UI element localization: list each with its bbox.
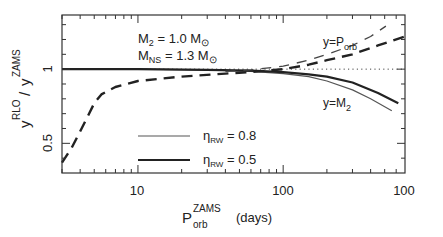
svg-text:MNS = 1.3 M⊙: MNS = 1.3 M⊙ <box>138 48 217 65</box>
m2-curve-label: y=M2 <box>323 96 351 113</box>
y-label-main2: y <box>16 78 33 86</box>
param1-main: M <box>138 31 149 46</box>
porb-label-main: y=P <box>323 35 344 49</box>
x-label-unit: (days) <box>236 210 272 225</box>
y-label-main: y <box>16 120 33 128</box>
series-line-thick-dashed <box>62 37 405 163</box>
y-tick-label-1: 1 <box>40 65 55 72</box>
eta-symbol: η <box>203 128 210 143</box>
plot-frame <box>62 15 405 173</box>
legend-value: = 0.8 <box>223 128 256 143</box>
y-label-sup2: ZAMS <box>11 49 22 77</box>
m2-label-sub: 2 <box>346 103 351 113</box>
param2-main: M <box>138 48 149 63</box>
x-tick-label-10: 10 <box>130 183 144 198</box>
y-label-sup: RLO <box>11 99 22 120</box>
params-annotation: M2 = 1.0 M⊙ MNS = 1.3 M⊙ <box>138 31 217 65</box>
legend-label-0-5: ηRW = 0.5 <box>203 152 256 169</box>
svg-text:M2 = 1.0 M⊙: M2 = 1.0 M⊙ <box>138 31 209 48</box>
eta-symbol: η <box>203 152 210 167</box>
param2-sub: NS <box>149 55 162 65</box>
svg-text:P: P <box>182 209 192 226</box>
x-tick-label-right: 100 <box>393 183 415 198</box>
y-tick-label-0-5: 0.5 <box>40 134 55 152</box>
axis-ticks <box>62 15 405 173</box>
legend-value: = 0.5 <box>223 152 256 167</box>
legend: ηRW = 0.8 ηRW = 0.5 <box>138 128 256 169</box>
eta-sub: RW <box>210 136 224 145</box>
eta-sub: RW <box>210 160 224 169</box>
param2-rest: = 1.3 M <box>161 48 208 63</box>
x-axis-label: P ZAMS orb (days) <box>182 203 272 230</box>
y-label-slash: / <box>16 91 33 96</box>
y-axis-label: y RLO / y ZAMS <box>11 49 33 128</box>
porb-label-sub: orb <box>344 42 357 52</box>
sun-symbol-icon: ⊙ <box>201 37 209 48</box>
x-label-main: P <box>182 209 192 226</box>
series-line-thin-dashed <box>225 26 386 71</box>
x-label-sub: orb <box>193 219 208 230</box>
x-tick-label-100: 100 <box>272 183 294 198</box>
legend-label-0-8: ηRW = 0.8 <box>203 128 256 145</box>
sun-symbol-icon: ⊙ <box>209 54 217 65</box>
param1-rest: = 1.0 M <box>154 31 201 46</box>
series-line-thick-solid <box>62 69 398 103</box>
chart: 1 0.5 10 100 100 P ZAMS orb (days) y RLO… <box>0 0 443 237</box>
x-label-sup: ZAMS <box>193 203 221 214</box>
m2-label-main: y=M <box>323 96 346 110</box>
